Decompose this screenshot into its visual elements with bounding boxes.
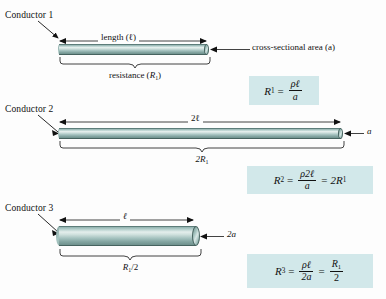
formula-r1-denominator: a [289, 90, 302, 102]
formula-r3-numerator: ρℓ [300, 260, 313, 271]
conductor-1-area-label: cross-sectional area (a) [252, 42, 335, 52]
conductor-1-brace [59, 57, 211, 69]
conductor-1-right-cap [204, 44, 209, 55]
formula-r3-box: R3 = ρℓ 2a = R1 2 [247, 254, 373, 288]
formula-r2-tail: 2R [330, 174, 342, 186]
conductor-1-area-leader [210, 45, 250, 54]
formula-r3-denominator: 2a [299, 271, 313, 283]
conductor-1-resistance-prefix: resistance ( [109, 70, 150, 80]
conductor-3-area-label: 2a [227, 229, 236, 239]
conductor-3-brace [59, 249, 202, 261]
formula-r2-fraction: ρ2ℓ a [298, 169, 316, 191]
formula-r3-equals-2: = [318, 265, 324, 277]
conductor-3-right-cap [192, 226, 200, 246]
conductor-1-label: Conductor 1 [5, 10, 53, 20]
formula-r2-box: R2 = ρ2ℓ a = 2R1 [247, 166, 373, 194]
conductor-2-resistance-sym: 2R [196, 154, 206, 164]
conductor-1-body [59, 44, 207, 55]
conductor-2-right-cap [338, 128, 343, 139]
formula-r2-equals: = [287, 174, 293, 186]
formula-r3-tail-fraction: R1 2 [330, 259, 343, 283]
formula-r3-lhs: R [275, 265, 282, 277]
formula-r1-fraction: ρℓ a [289, 79, 302, 101]
formula-r2-lhs: R [274, 174, 281, 186]
formula-r2-denominator: a [298, 180, 316, 192]
conductor-2-body [59, 128, 341, 139]
formula-r3-tail-num-sub: 1 [338, 263, 341, 270]
formula-r1-numerator: ρℓ [289, 79, 302, 90]
conductor-3-area-leader [200, 232, 224, 241]
conductor-1-resistance-suffix: ) [158, 70, 161, 80]
conductor-1-cylinder [59, 44, 209, 55]
formula-r3-fraction: ρℓ 2a [299, 260, 313, 282]
conductor-3-label: Conductor 3 [5, 203, 53, 213]
conductor-2-cylinder [59, 128, 343, 139]
physics-diagram-canvas: Conductor 1 length (ℓ) [0, 0, 386, 299]
conductor-2-label: Conductor 2 [5, 104, 53, 114]
formula-r1-lhs: R [264, 85, 271, 97]
conductor-2-area-leader [344, 129, 364, 138]
formula-r3-equals: = [288, 265, 294, 277]
formula-r2-equals-2: = [321, 174, 327, 186]
conductor-2-length-label: 2ℓ [188, 113, 203, 123]
conductor-3-body [59, 226, 196, 246]
formula-r3-tail-denominator: 2 [330, 271, 343, 283]
formula-r1-equals: = [278, 85, 284, 97]
conductor-3-cylinder [59, 226, 200, 246]
conductor-2-brace [59, 141, 345, 153]
conductor-2-resistance-sub: 1 [206, 159, 209, 165]
formula-r2-numerator: ρ2ℓ [298, 169, 316, 180]
formula-r2-lhs-sub: 2 [280, 176, 284, 184]
formula-r3-tail-numerator: R1 [330, 259, 343, 271]
conductor-1-length-label: length (ℓ) [98, 32, 139, 42]
conductor-2-resistance-label: 2R1 [59, 154, 345, 165]
conductor-1-resistance-label: resistance (R1) [59, 70, 211, 81]
conductor-2-area-label: a [367, 126, 372, 136]
conductor-3-resistance-suffix: /2 [131, 262, 138, 272]
formula-r2-tail-sub: 1 [343, 176, 347, 184]
formula-r3-lhs-sub: 3 [282, 267, 286, 275]
conductor-3-resistance-label: R1/2 [59, 262, 202, 273]
formula-r1-box: R1 = ρℓ a [249, 76, 319, 105]
conductor-3-length-label: ℓ [120, 211, 130, 221]
formula-r1-lhs-sub: 1 [271, 87, 275, 95]
